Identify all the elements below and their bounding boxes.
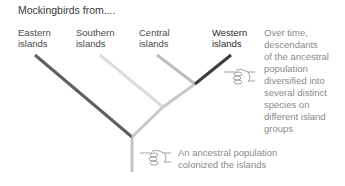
note-line: descendants <box>264 39 329 51</box>
diversification-note: Over time, descendants of the ancestral … <box>264 27 329 135</box>
central-branch <box>157 55 195 84</box>
note-line: colonized the islands <box>178 159 277 171</box>
note-line: of the ancestral <box>264 51 329 63</box>
note-line: different island <box>264 111 329 123</box>
southern-branch <box>100 55 163 107</box>
pointing-hand-icon <box>138 147 172 167</box>
eastern-branch <box>35 55 132 137</box>
note-line: population <box>264 63 329 75</box>
pointing-hand-icon <box>222 66 256 86</box>
note-line: several distinct <box>264 87 329 99</box>
colonization-note: An ancestral population colonized the is… <box>178 147 277 171</box>
note-line: diversified into <box>264 75 329 87</box>
note-line: species on <box>264 99 329 111</box>
note-line: Over time, <box>264 27 329 39</box>
inner-branch-2 <box>163 84 195 107</box>
note-line: groups <box>264 123 329 135</box>
inner-branch <box>132 107 163 137</box>
note-line: An ancestral population <box>178 147 277 159</box>
